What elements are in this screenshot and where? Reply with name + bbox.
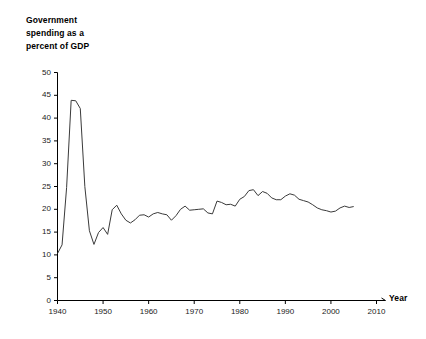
y-axis (54, 73, 58, 301)
data-series-line (58, 100, 354, 253)
plot-area (0, 0, 426, 339)
x-axis (58, 298, 386, 304)
chart-container: Government spending as a percent of GDP … (0, 0, 426, 339)
